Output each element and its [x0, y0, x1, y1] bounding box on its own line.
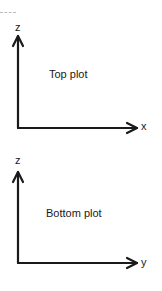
top-plot-axes	[13, 36, 137, 133]
top-horizontal-axis-label: x	[141, 121, 147, 132]
bottom-plot-axes	[13, 172, 137, 268]
axes-drawing	[0, 0, 162, 291]
top-plot-title: Top plot	[49, 69, 88, 80]
bottom-horizontal-axis-label: y	[141, 257, 147, 268]
bottom-plot-title: Bottom plot	[46, 208, 102, 219]
bottom-vertical-axis-label: z	[15, 155, 21, 166]
top-vertical-axis-label: z	[15, 22, 21, 33]
